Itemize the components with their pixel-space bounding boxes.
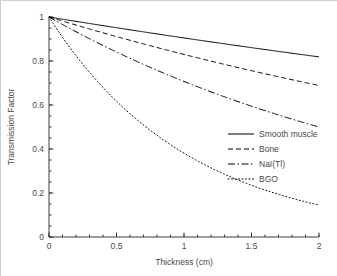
legend-label-nai-tl: NaI(Tl) [259,159,285,169]
y-tick-label: 1 [39,12,44,22]
legend-label-smooth-muscle: Smooth muscle [259,129,318,139]
x-tick-label: 1.5 [246,241,258,251]
y-tick-label: 0.8 [32,56,44,66]
y-tick-label: 0.4 [32,144,44,154]
legend-label-bgo: BGO [259,174,278,184]
chart-figure: 00.511.52 00.20.40.60.81 Thickness (cm) … [0,0,337,276]
x-tick-label: 2 [317,241,322,251]
transmission-factor-line-chart: 00.511.52 00.20.40.60.81 Thickness (cm) … [1,1,337,276]
x-axis-title: Thickness (cm) [155,257,213,267]
y-tick-label: 0 [39,232,44,242]
legend-label-bone: Bone [259,144,279,154]
y-tick-label: 0.2 [32,188,44,198]
y-axis-title: Transmission Factor [6,89,16,166]
y-tick-label: 0.6 [32,100,44,110]
x-tick-label: 0.5 [111,241,123,251]
x-tick-label: 0 [47,241,52,251]
x-tick-label: 1 [182,241,187,251]
